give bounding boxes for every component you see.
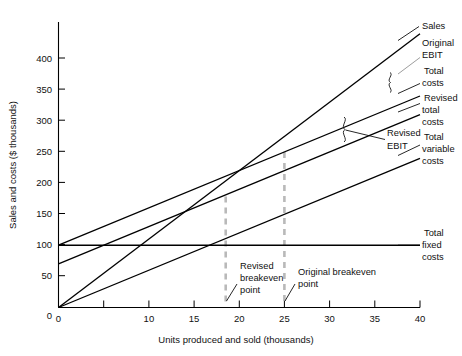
label-revised-ebit-line2: EBIT <box>387 141 408 151</box>
x-ticklabel-30: 30 <box>324 313 335 324</box>
leader-revised-breakeven <box>227 284 238 301</box>
y-ticklabel-50: 50 <box>41 270 52 281</box>
original-ebit-brace-path <box>389 73 391 93</box>
label-revised-ebit-line1: Revised <box>387 128 421 138</box>
x-ticklabel-10: 10 <box>144 313 155 324</box>
y-ticklabel-400: 400 <box>36 53 52 64</box>
x-ticklabel-0: 0 <box>56 313 61 324</box>
y-ticklabel-100: 100 <box>36 239 52 250</box>
y-ticklabel-150: 150 <box>36 208 52 219</box>
leader-original-breakeven <box>285 284 295 301</box>
label-total-fixed-line3: costs <box>422 252 444 262</box>
y-ticklabel-0: 0 <box>47 310 52 321</box>
label-original-breakeven-line1: Original breakeven <box>298 267 376 277</box>
breakeven-callouts: Revised breakeven point Original breakev… <box>227 261 377 301</box>
y-axis-title: Sales and costs ($ thousands) <box>7 101 18 229</box>
label-revised-breakeven-line2: breakeven <box>240 273 283 283</box>
series-labels: Sales Original EBIT Total costs Revised … <box>422 21 458 262</box>
leader-original-ebit <box>398 58 420 75</box>
label-revised-total-line1: Revised <box>424 93 458 103</box>
label-total-variable-line3: costs <box>422 156 444 166</box>
label-original-ebit-line1: Original <box>422 38 454 48</box>
label-original-ebit-line2: EBIT <box>422 50 443 60</box>
label-total-fixed-line1: Total <box>424 228 444 238</box>
series-line-total-costs <box>59 96 421 245</box>
label-revised-breakeven-line1: Revised <box>240 261 274 271</box>
leader-revised-total-costs <box>398 104 420 113</box>
original-ebit-brace <box>389 73 391 93</box>
x-ticklabel-15: 15 <box>189 313 200 324</box>
x-ticklabel-20: 20 <box>234 313 245 324</box>
x-ticklabel-25: 25 <box>279 313 290 324</box>
label-original-breakeven-line2: point <box>298 279 319 289</box>
x-ticklabel-35: 35 <box>370 313 381 324</box>
y-ticklabel-200: 200 <box>36 177 52 188</box>
x-axis-title: Units produced and sold (thousands) <box>158 334 313 345</box>
leader-total-costs <box>398 84 420 94</box>
y-tick-group: 400 350 300 250 200 150 100 50 0 <box>36 53 65 321</box>
label-total-costs-line1: Total <box>424 66 444 76</box>
label-total-fixed-line2: fixed <box>422 240 442 250</box>
label-total-variable-line1: Total <box>424 132 444 142</box>
label-sales: Sales <box>422 21 446 31</box>
series-line-revised-total-costs <box>59 115 421 264</box>
y-ticklabel-350: 350 <box>36 84 52 95</box>
breakeven-chart-svg: 400 350 300 250 200 150 100 50 0 0 10 15… <box>0 0 462 356</box>
label-revised-breakeven-line3: point <box>240 285 261 295</box>
revised-ebit-brace-path <box>343 117 345 142</box>
y-ticklabel-250: 250 <box>36 146 52 157</box>
label-revised-total-line2: total <box>422 105 440 115</box>
chart-figure: 400 350 300 250 200 150 100 50 0 0 10 15… <box>0 0 462 356</box>
label-total-costs-line2: costs <box>422 78 444 88</box>
x-ticklabel-40: 40 <box>415 313 426 324</box>
x-tick-group: 0 10 15 20 25 30 35 40 <box>56 301 425 325</box>
label-revised-total-line3: costs <box>422 117 444 127</box>
label-total-variable-line2: variable <box>422 144 455 154</box>
y-ticklabel-300: 300 <box>36 115 52 126</box>
leader-sales <box>398 27 419 41</box>
